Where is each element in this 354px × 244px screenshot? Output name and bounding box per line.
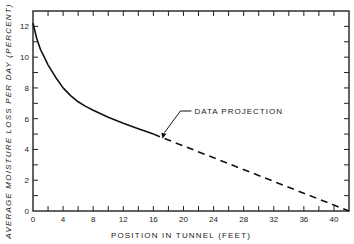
x-tick-label: 12 [119, 215, 128, 224]
y-tick-label: 10 [20, 53, 29, 62]
y-tick-label: 2 [25, 176, 30, 185]
x-tick-label: 20 [179, 215, 188, 224]
annotation-arrowhead [161, 133, 166, 139]
chart: 0481216202428323640024681012POSITION IN … [0, 0, 354, 244]
x-tick-label: 36 [299, 215, 308, 224]
y-tick-label: 12 [20, 22, 29, 31]
plot-area: 0481216202428323640024681012POSITION IN … [4, 3, 349, 240]
annotation-label: DATA PROJECTION [194, 107, 283, 116]
x-tick-label: 8 [91, 215, 96, 224]
projection-line [153, 134, 349, 211]
x-tick-label: 0 [31, 215, 36, 224]
measured-line [33, 23, 153, 134]
y-axis-title: AVERAGE MOISTURE LOSS PER DAY (PERCENT) [4, 3, 13, 239]
y-tick-label: 8 [25, 84, 30, 93]
y-tick-label: 6 [25, 115, 30, 124]
x-tick-label: 4 [61, 215, 66, 224]
y-tick-label: 0 [25, 207, 30, 216]
x-tick-label: 24 [209, 215, 218, 224]
x-tick-label: 40 [329, 215, 338, 224]
annotation-leader [164, 111, 191, 133]
x-tick-label: 16 [149, 215, 158, 224]
x-tick-label: 32 [269, 215, 278, 224]
x-axis-title: POSITION IN TUNNEL (FEET) [111, 231, 251, 240]
x-tick-label: 28 [239, 215, 248, 224]
y-tick-label: 4 [25, 145, 30, 154]
